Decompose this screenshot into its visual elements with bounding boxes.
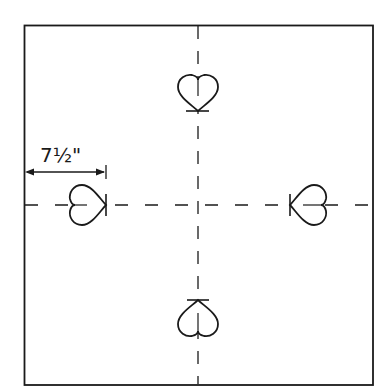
heart-bottom <box>178 300 218 336</box>
heart-right <box>290 185 326 225</box>
arrowhead-right-icon <box>96 169 105 176</box>
dimension-label: 7½" <box>40 142 94 168</box>
quilt-block-diagram <box>0 0 392 390</box>
arrowhead-left-icon <box>25 169 34 176</box>
heart-top <box>178 75 218 111</box>
heart-left <box>70 185 106 225</box>
